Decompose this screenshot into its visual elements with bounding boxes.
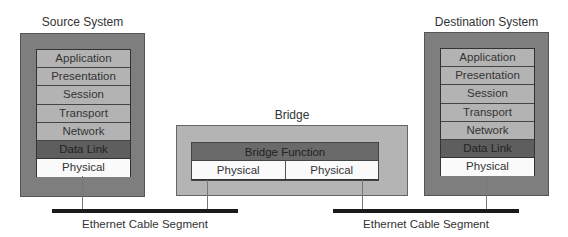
destination-layer-data-link: Data Link [441, 140, 534, 158]
destination-layer-application: Application [441, 49, 534, 67]
bridge-physical-row: Physical Physical [192, 161, 378, 179]
destination-layer-session: Session [441, 85, 534, 103]
source-system-box: Application Presentation Session Transpo… [20, 33, 145, 197]
right-cable-label: Ethernet Cable Segment [333, 218, 519, 230]
destination-system-box: Application Presentation Session Transpo… [424, 32, 549, 196]
source-layer-session: Session [37, 86, 130, 104]
source-layer-network: Network [37, 123, 130, 141]
bridge-right-drop-line [362, 180, 363, 211]
destination-layer-presentation: Presentation [441, 67, 534, 85]
bridge-box: Bridge Function Physical Physical [176, 125, 408, 196]
bridge-physical-left: Physical [192, 161, 286, 179]
destination-layer-network: Network [441, 122, 534, 140]
destination-drop-line [486, 176, 487, 211]
source-layer-transport: Transport [37, 105, 130, 123]
left-ethernet-cable [52, 209, 238, 213]
source-osi-stack: Application Presentation Session Transpo… [36, 49, 131, 177]
source-layer-physical: Physical [37, 159, 130, 177]
source-drop-line [82, 176, 83, 211]
source-layer-application: Application [37, 50, 130, 68]
bridge-stack: Bridge Function Physical Physical [191, 142, 379, 181]
destination-system-title: Destination System [424, 15, 549, 29]
bridge-physical-right: Physical [286, 161, 379, 179]
destination-layer-physical: Physical [441, 158, 534, 176]
right-ethernet-cable [333, 209, 519, 213]
left-cable-label: Ethernet Cable Segment [52, 218, 238, 230]
source-system-title: Source System [20, 15, 145, 29]
source-layer-data-link: Data Link [37, 141, 130, 159]
bridge-function-layer: Bridge Function [192, 143, 378, 161]
bridge-left-drop-line [207, 180, 208, 211]
source-layer-presentation: Presentation [37, 68, 130, 86]
destination-layer-transport: Transport [441, 104, 534, 122]
destination-osi-stack: Application Presentation Session Transpo… [440, 48, 535, 176]
bridge-title: Bridge [176, 108, 408, 122]
